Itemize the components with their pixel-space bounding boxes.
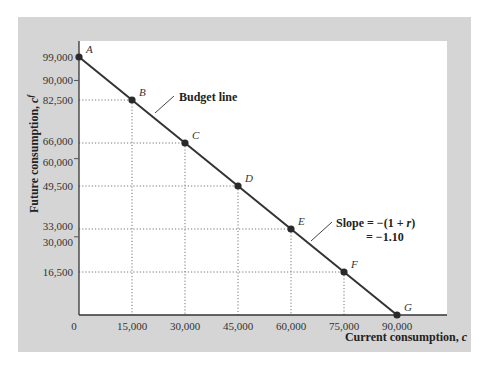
x-tick-label: 60,000 bbox=[276, 320, 307, 332]
budget-line-label: Budget line bbox=[179, 90, 238, 104]
point-b bbox=[128, 96, 135, 103]
point-c bbox=[181, 139, 188, 146]
point-label-a: A bbox=[85, 43, 93, 55]
x-axis-title: Current consumption, c bbox=[345, 330, 468, 344]
y-tick-label: 99,000 bbox=[43, 51, 74, 63]
point-g bbox=[393, 311, 400, 318]
y-axis-title: Future consumption, cf bbox=[26, 94, 41, 213]
x-tick-label: 30,000 bbox=[170, 320, 201, 332]
budget-line-chart: 16,50030,00033,00049,50060,00066,00082,5… bbox=[0, 0, 489, 370]
point-label-f: F bbox=[350, 258, 358, 270]
y-tick-label: 33,000 bbox=[43, 220, 74, 232]
plot-area bbox=[79, 41, 447, 315]
point-e bbox=[287, 225, 294, 232]
point-label-e: E bbox=[297, 215, 305, 227]
y-tick-label: 49,500 bbox=[43, 180, 74, 192]
point-label-c: C bbox=[192, 129, 200, 141]
x-tick-label: 15,000 bbox=[117, 320, 148, 332]
point-label-b: B bbox=[139, 86, 146, 98]
point-f bbox=[340, 268, 347, 275]
x-axis-var: c bbox=[462, 330, 468, 344]
y-tick-label: 90,000 bbox=[43, 74, 74, 86]
y-tick-label: 82,500 bbox=[43, 94, 74, 106]
point-label-g: G bbox=[404, 301, 412, 313]
x-axis-title-text: Current consumption, bbox=[345, 330, 462, 344]
y-tick-label: 66,000 bbox=[43, 135, 74, 147]
point-d bbox=[234, 182, 241, 189]
y-tick-label: 16,500 bbox=[43, 266, 74, 278]
slope-paren: ) bbox=[411, 216, 415, 230]
y-axis-title-text: Future consumption, bbox=[27, 103, 41, 213]
slope-label-line2: = −1.10 bbox=[366, 230, 404, 244]
slope-text: Slope = −(1 + bbox=[336, 216, 407, 230]
point-a bbox=[75, 53, 82, 60]
y-tick-label: 30,000 bbox=[43, 236, 74, 248]
point-label-d: D bbox=[244, 172, 253, 184]
x-tick-label: 45,000 bbox=[223, 320, 254, 332]
x-tick-label: 0 bbox=[71, 320, 77, 332]
slope-label-line1: Slope = −(1 + r) bbox=[336, 216, 415, 230]
y-tick-label: 60,000 bbox=[43, 156, 74, 168]
